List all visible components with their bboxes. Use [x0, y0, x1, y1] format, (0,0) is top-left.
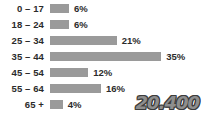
table-row: 45 – 54 12% — [0, 65, 202, 80]
table-row: 35 – 44 35% — [0, 49, 202, 64]
bar — [50, 52, 161, 61]
table-row: 0 – 17 6% — [0, 1, 202, 16]
category-label: 25 – 34 — [0, 33, 50, 48]
bar-value-label: 4% — [68, 97, 82, 112]
table-row: 18 – 24 6% — [0, 17, 202, 32]
bar — [50, 84, 101, 93]
total-figure-watermark: 20.400 — [136, 94, 199, 112]
bar — [50, 68, 88, 77]
bar-zone: 6% — [50, 1, 202, 16]
category-label: 0 – 17 — [0, 1, 50, 16]
category-label: 35 – 44 — [0, 49, 50, 64]
bar-zone: 21% — [50, 33, 202, 48]
bar-zone: 6% — [50, 17, 202, 32]
bar — [50, 36, 117, 45]
age-distribution-bar-chart: 0 – 17 6% 18 – 24 6% 25 – 34 21% 35 – 44 — [0, 0, 202, 113]
category-label: 18 – 24 — [0, 17, 50, 32]
bar-value-label: 16% — [106, 81, 125, 96]
bar-value-label: 6% — [74, 1, 88, 16]
bar-value-label: 12% — [93, 65, 112, 80]
bar-zone: 12% — [50, 65, 202, 80]
category-label: 55 – 64 — [0, 81, 50, 96]
bar-value-label: 6% — [74, 17, 88, 32]
bar-zone: 35% — [50, 49, 202, 64]
bar — [50, 100, 63, 109]
category-label: 45 – 54 — [0, 65, 50, 80]
bar-value-label: 21% — [122, 33, 141, 48]
bar — [50, 4, 69, 13]
bar — [50, 20, 69, 29]
bar-value-label: 35% — [166, 49, 185, 64]
table-row: 25 – 34 21% — [0, 33, 202, 48]
category-label: 65 + — [0, 97, 50, 112]
